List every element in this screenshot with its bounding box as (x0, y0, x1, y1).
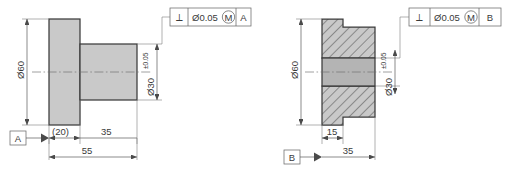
right-fcf-modifier: M (467, 12, 475, 23)
right-dim-30-label: Ø30 (383, 78, 394, 96)
right-dim-30-tolerance: ±0.05 (380, 52, 387, 69)
left-datum-triangle-icon (41, 134, 49, 143)
left-dim-30-tolerance: ±0.05 (142, 52, 149, 69)
left-fcf-tolerance: Ø0.05 (192, 12, 218, 23)
right-dim-35-label: 35 (343, 145, 354, 156)
left-dim-20-label: (20) (52, 126, 69, 137)
left-dim-30-label: Ø30 (145, 78, 156, 96)
left-fcf-modifier: M (225, 12, 233, 23)
right-dim-15-label: 15 (327, 126, 338, 137)
left-feature-control-frame[interactable]: ⟂ Ø0.05 M A (170, 8, 251, 26)
right-lower-material (322, 86, 375, 125)
right-upper-material (322, 19, 375, 58)
left-view-group: Ø60 Ø30 ±0.05 (20) 35 55 A (10, 8, 251, 160)
right-fcf-datum: B (487, 12, 493, 23)
left-dim-60-label: Ø60 (15, 61, 26, 79)
right-fcf-perpendicularity-icon: ⟂ (416, 12, 423, 23)
right-fcf-tolerance: Ø0.05 (434, 12, 460, 23)
drawing-sheet: Ø60 Ø30 ±0.05 (20) 35 55 A (0, 0, 511, 175)
right-feature-control-frame[interactable]: ⟂ Ø0.05 M B (409, 8, 501, 26)
left-fcf-datum: A (240, 12, 247, 23)
right-view-group: Ø60 Ø30 ±0.05 15 35 B ⟂ Ø0.05 (284, 8, 501, 164)
left-datum-label: A (15, 133, 22, 144)
left-dim-55-label: 55 (82, 145, 93, 156)
right-dim-60-label: Ø60 (289, 61, 300, 79)
left-dim-35-label: 35 (101, 126, 112, 137)
left-fcf-perpendicularity-icon: ⟂ (176, 12, 183, 23)
right-datum-label: B (289, 152, 295, 163)
right-datum-triangle-icon (314, 153, 322, 162)
